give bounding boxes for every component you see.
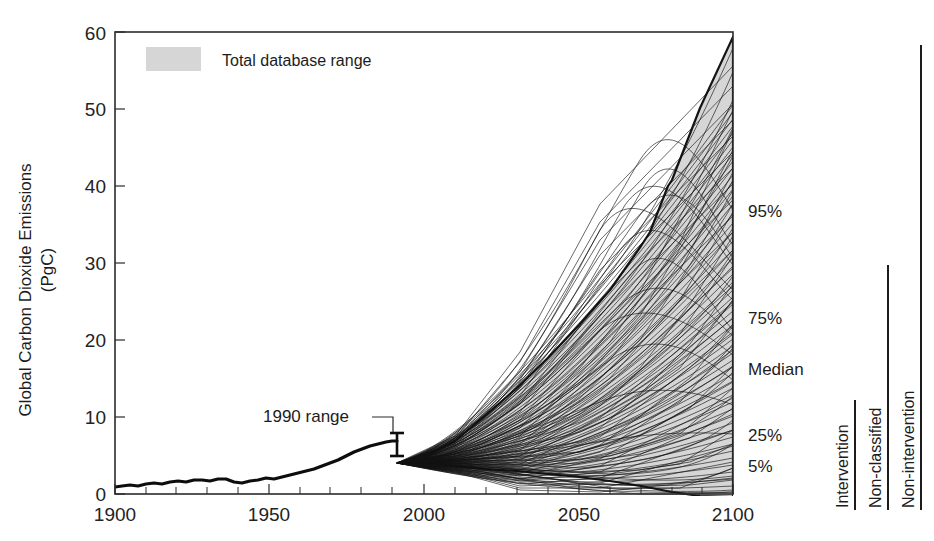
x-tick-label-2000: 2000 [403, 504, 445, 525]
y-axis-title-line1: Global Carbon Dioxide Emissions [16, 163, 35, 416]
percentile-label-median: Median [748, 360, 804, 379]
y-tick-label-60: 60 [85, 23, 106, 44]
chart-figure: 0 10 20 30 40 50 60 1900 1950 2000 2050 … [0, 0, 934, 541]
y-axis-title: Global Carbon Dioxide Emissions (PgC) [16, 163, 57, 416]
y-tick-label-20: 20 [85, 330, 106, 351]
percentile-label-95: 95% [748, 202, 782, 221]
y-tick-label-30: 30 [85, 253, 106, 274]
emissions-chart-svg: 0 10 20 30 40 50 60 1900 1950 2000 2050 … [0, 0, 934, 541]
legend-swatch-total-database-range [146, 47, 201, 71]
annotation-1990-range-label: 1990 range [263, 407, 349, 426]
legend-label-total-database-range: Total database range [222, 52, 372, 69]
group-brackets: Intervention Non-classified Non-interven… [834, 45, 921, 510]
group-label-intervention: Intervention [834, 424, 851, 508]
group-label-non-intervention: Non-intervention [900, 391, 917, 508]
y-tick-labels: 0 10 20 30 40 50 60 [85, 23, 106, 505]
x-tick-label-1950: 1950 [248, 504, 290, 525]
x-tick-labels: 1900 1950 2000 2050 2100 [94, 504, 754, 525]
x-tick-label-2050: 2050 [558, 504, 600, 525]
x-tick-label-1900: 1900 [94, 504, 136, 525]
y-axis-title-line2: (PgC) [38, 248, 57, 292]
x-tick-label-2100: 2100 [712, 504, 754, 525]
group-label-non-classified: Non-classified [867, 408, 884, 508]
y-tick-label-10: 10 [85, 407, 106, 428]
y-tick-label-40: 40 [85, 176, 106, 197]
percentile-label-5: 5% [748, 457, 773, 476]
percentile-label-75: 75% [748, 309, 782, 328]
percentile-label-25: 25% [748, 426, 782, 445]
y-tick-label-50: 50 [85, 99, 106, 120]
y-tick-label-0: 0 [95, 484, 106, 505]
percentile-labels: 95% 75% Median 25% 5% [748, 202, 804, 476]
